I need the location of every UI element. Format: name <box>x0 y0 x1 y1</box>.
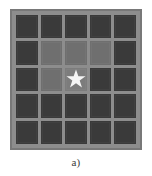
grid-cell-r5c3[interactable] <box>65 121 87 144</box>
grid-cell-r3c3[interactable] <box>65 68 87 91</box>
grid-cell-r3c5[interactable] <box>114 68 136 91</box>
grid-cell-r1c2[interactable] <box>41 15 63 38</box>
grid-cell-r2c5[interactable] <box>114 41 136 64</box>
grid-cell-r4c2[interactable] <box>41 94 63 117</box>
star-icon <box>66 69 86 89</box>
grid-cell-r1c1[interactable] <box>16 15 38 38</box>
grid-cell-r2c3[interactable] <box>65 41 87 64</box>
grid-cell-r4c3[interactable] <box>65 94 87 117</box>
grid-cell-r5c4[interactable] <box>90 121 112 144</box>
cellular-grid-panel <box>10 9 142 150</box>
grid-cell-r3c2[interactable] <box>41 68 63 91</box>
figure-caption: а) <box>0 156 152 168</box>
grid-cell-r5c5[interactable] <box>114 121 136 144</box>
grid-cell-r2c4[interactable] <box>90 41 112 64</box>
grid-cell-r4c4[interactable] <box>90 94 112 117</box>
grid-cell-r2c1[interactable] <box>16 41 38 64</box>
grid-cell-r1c4[interactable] <box>90 15 112 38</box>
grid-cell-r3c4[interactable] <box>90 68 112 91</box>
grid-cell-r2c2[interactable] <box>41 41 63 64</box>
grid-cell-r1c3[interactable] <box>65 15 87 38</box>
grid-cell-r3c1[interactable] <box>16 68 38 91</box>
grid-cell-r1c5[interactable] <box>114 15 136 38</box>
grid-cell-r4c5[interactable] <box>114 94 136 117</box>
grid-cell-r4c1[interactable] <box>16 94 38 117</box>
figure-root: а) <box>0 0 152 176</box>
grid-cell-r5c1[interactable] <box>16 121 38 144</box>
grid-cell-r5c2[interactable] <box>41 121 63 144</box>
